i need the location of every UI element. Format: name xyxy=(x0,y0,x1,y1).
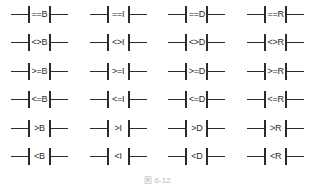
left-lead-wire xyxy=(90,99,107,100)
comparison-operator-label: ==I xyxy=(109,10,128,19)
left-lead-wire xyxy=(247,71,264,72)
right-lead-wire xyxy=(51,71,68,72)
comparison-contact: <=B xyxy=(11,89,68,111)
comparison-contact: >B xyxy=(11,117,68,139)
left-lead-wire xyxy=(247,42,264,43)
right-lead-wire xyxy=(208,14,225,15)
left-lead-wire xyxy=(11,14,28,15)
left-lead-wire xyxy=(168,71,185,72)
comparison-operator-label: <>R xyxy=(266,38,285,47)
left-lead-wire xyxy=(90,128,107,129)
right-lead-wire xyxy=(287,14,304,15)
left-lead-wire xyxy=(247,128,264,129)
left-lead-wire xyxy=(11,71,28,72)
comparison-operator-label: <R xyxy=(266,152,285,161)
right-lead-wire xyxy=(130,156,147,157)
right-lead-wire xyxy=(208,42,225,43)
comparison-operator-label: <>B xyxy=(30,38,49,47)
comparison-contact: <>R xyxy=(247,32,304,54)
left-lead-wire xyxy=(90,156,107,157)
left-lead-wire xyxy=(11,128,28,129)
left-lead-wire xyxy=(247,156,264,157)
figure-caption: 图 6-12 xyxy=(0,176,315,185)
right-lead-wire xyxy=(208,128,225,129)
comparison-contact: >D xyxy=(168,117,225,139)
right-lead-wire xyxy=(130,14,147,15)
comparison-contact: >=D xyxy=(168,60,225,82)
left-lead-wire xyxy=(90,42,107,43)
comparison-contact: >I xyxy=(90,117,147,139)
right-lead-wire xyxy=(208,156,225,157)
right-lead-wire xyxy=(287,42,304,43)
comparison-operator-label: >=I xyxy=(109,67,128,76)
comparison-contact: ==D xyxy=(168,3,225,25)
comparison-contact: <D xyxy=(168,146,225,168)
comparison-operator-label: >I xyxy=(109,124,128,133)
right-lead-wire xyxy=(51,99,68,100)
right-lead-wire xyxy=(287,71,304,72)
comparison-operator-label: >D xyxy=(187,124,206,133)
comparison-contact: ==B xyxy=(11,3,68,25)
left-lead-wire xyxy=(168,99,185,100)
comparison-operator-label: <>D xyxy=(187,38,206,47)
right-lead-wire xyxy=(208,71,225,72)
comparison-contact: <=D xyxy=(168,89,225,111)
comparison-contact: <R xyxy=(247,146,304,168)
comparison-operator-label: ==R xyxy=(266,10,285,19)
left-lead-wire xyxy=(168,42,185,43)
left-lead-wire xyxy=(168,14,185,15)
comparison-contact: <>I xyxy=(90,32,147,54)
left-lead-wire xyxy=(11,156,28,157)
left-lead-wire xyxy=(168,156,185,157)
comparison-contact: >=B xyxy=(11,60,68,82)
comparison-operator-label: ==B xyxy=(30,10,49,19)
right-lead-wire xyxy=(130,71,147,72)
left-lead-wire xyxy=(247,99,264,100)
comparison-operator-label: ==D xyxy=(187,10,206,19)
comparison-operator-label: <=I xyxy=(109,95,128,104)
left-lead-wire xyxy=(247,14,264,15)
comparison-contact: >R xyxy=(247,117,304,139)
right-lead-wire xyxy=(287,128,304,129)
comparison-contact: >=I xyxy=(90,60,147,82)
right-lead-wire xyxy=(51,42,68,43)
comparison-contact: <=R xyxy=(247,89,304,111)
left-lead-wire xyxy=(11,99,28,100)
comparison-contact: ==R xyxy=(247,3,304,25)
right-lead-wire xyxy=(51,14,68,15)
comparison-contact: <I xyxy=(90,146,147,168)
comparison-operator-label: <=D xyxy=(187,95,206,104)
comparison-operator-label: >=B xyxy=(30,67,49,76)
comparison-operator-label: <=B xyxy=(30,95,49,104)
right-lead-wire xyxy=(130,128,147,129)
comparison-operator-label: >B xyxy=(30,124,49,133)
comparison-operator-label: <D xyxy=(187,152,206,161)
left-lead-wire xyxy=(11,42,28,43)
right-lead-wire xyxy=(208,99,225,100)
comparison-operator-label: <=R xyxy=(266,95,285,104)
right-lead-wire xyxy=(287,99,304,100)
comparison-contact: <=I xyxy=(90,89,147,111)
comparison-operator-label: <I xyxy=(109,152,128,161)
right-lead-wire xyxy=(51,156,68,157)
comparison-contact-grid: ==B==I==D==R<>B<>I<>D<>R>=B>=I>=D>=R<=B<… xyxy=(0,0,315,172)
comparison-operator-label: >=D xyxy=(187,67,206,76)
right-lead-wire xyxy=(130,42,147,43)
figure-caption-area: 图 6-12 xyxy=(0,172,315,187)
left-lead-wire xyxy=(90,71,107,72)
comparison-operator-label: <B xyxy=(30,152,49,161)
comparison-contact: ==I xyxy=(90,3,147,25)
right-lead-wire xyxy=(287,156,304,157)
comparison-contact: <>B xyxy=(11,32,68,54)
comparison-operator-label: >=R xyxy=(266,67,285,76)
right-lead-wire xyxy=(51,128,68,129)
comparison-contact: <>D xyxy=(168,32,225,54)
left-lead-wire xyxy=(90,14,107,15)
right-lead-wire xyxy=(130,99,147,100)
comparison-contact: >=R xyxy=(247,60,304,82)
comparison-operator-label: <>I xyxy=(109,38,128,47)
left-lead-wire xyxy=(168,128,185,129)
comparison-operator-label: >R xyxy=(266,124,285,133)
comparison-contact: <B xyxy=(11,146,68,168)
